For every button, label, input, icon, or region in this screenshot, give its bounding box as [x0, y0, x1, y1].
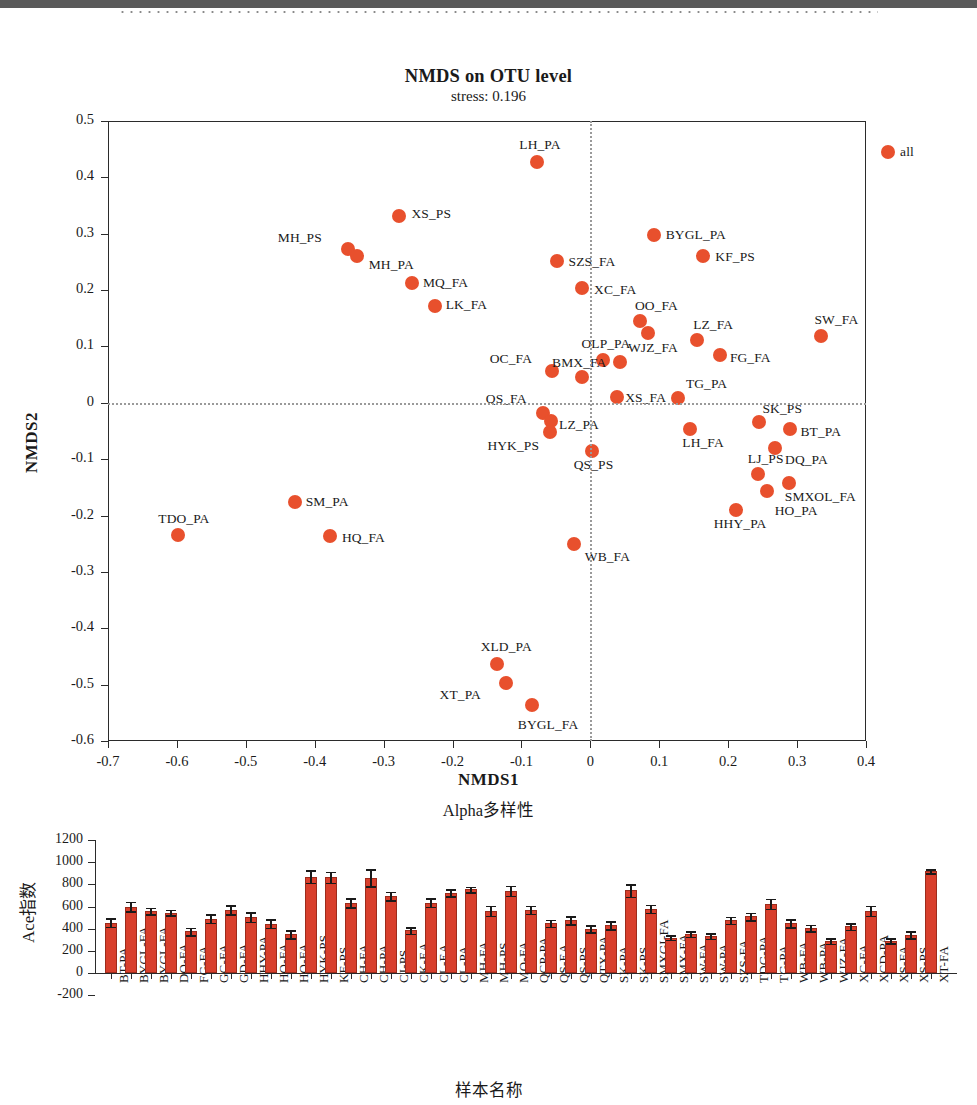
error-bar-cap: [446, 896, 456, 898]
bar-x-tick: [411, 973, 412, 979]
scatter-point-label: MQ_FA: [423, 275, 468, 291]
error-bar-cap: [386, 892, 396, 894]
bar-y-tick-label: 1000: [23, 853, 83, 869]
scatter-point[interactable]: [550, 254, 564, 268]
y-tick: [101, 459, 108, 460]
error-bar-cap: [466, 887, 476, 889]
alpha-diversity-panel: Alpha多样性 Ace指数 -200020040060080010001200…: [0, 793, 977, 1105]
bar-x-tick: [571, 973, 572, 979]
scatter-point[interactable]: [350, 249, 364, 263]
error-bar-cap: [126, 911, 136, 913]
scatter-point-label: SM_PA: [306, 494, 349, 510]
scatter-point[interactable]: [171, 528, 185, 542]
bar-y-tick-label: 1200: [23, 831, 83, 847]
x-tick: [866, 741, 867, 748]
bar-y-tick: [88, 951, 95, 952]
scatter-point[interactable]: [690, 333, 704, 347]
scatter-point[interactable]: [530, 155, 544, 169]
x-tick: [453, 741, 454, 748]
scatter-point[interactable]: [751, 467, 765, 481]
y-tick-label: 0.2: [36, 280, 94, 297]
bar-x-tick: [471, 973, 472, 979]
bar-x-tick: [391, 973, 392, 979]
error-bar-cap: [266, 919, 276, 921]
error-bar-cap: [186, 928, 196, 930]
scatter-point-label: OO_FA: [635, 298, 678, 314]
scatter-point[interactable]: [814, 329, 828, 343]
scatter-point[interactable]: [610, 390, 624, 404]
scatter-point-label: all: [900, 144, 914, 160]
bar-x-tick: [511, 973, 512, 979]
bar-x-tick: [131, 973, 132, 979]
scatter-point-label: XS_PS: [411, 206, 451, 222]
error-bar-cap: [326, 872, 336, 874]
bar-x-tick: [311, 973, 312, 979]
y-tick: [101, 177, 108, 178]
scatter-point[interactable]: [729, 503, 743, 517]
bar-x-tick: [591, 973, 592, 979]
error-bar-cap: [866, 916, 876, 918]
bar-y-tick-label: 200: [23, 942, 83, 958]
scatter-point[interactable]: [490, 657, 504, 671]
error-bar-cap: [286, 930, 296, 932]
scatter-point-label: BYGL_FA: [518, 717, 578, 733]
error-bar-cap: [306, 870, 316, 872]
x-tick-label: 0.2: [698, 753, 758, 770]
scatter-point[interactable]: [696, 249, 710, 263]
scatter-point[interactable]: [760, 484, 774, 498]
scatter-point[interactable]: [567, 537, 581, 551]
bar-x-tick: [371, 973, 372, 979]
bar-x-tick: [831, 973, 832, 979]
scatter-point-label: HO_PA: [775, 503, 818, 519]
bar-y-tick-label: 0: [23, 964, 83, 980]
scatter-point[interactable]: [752, 415, 766, 429]
error-bar-cap: [566, 916, 576, 918]
y-tick-label: 0.5: [36, 111, 94, 128]
bar-y-tick-label: 600: [23, 898, 83, 914]
y-tick: [101, 121, 108, 122]
scatter-point[interactable]: [288, 495, 302, 509]
scatter-point[interactable]: [525, 698, 539, 712]
scatter-point[interactable]: [575, 370, 589, 384]
nmds-scatter-panel: NMDS on OTU level stress: 0.196 NMDS2 NM…: [0, 18, 977, 793]
y-tick-label: -0.2: [36, 506, 94, 523]
x-tick: [177, 741, 178, 748]
x-tick-label: -0.7: [78, 753, 138, 770]
error-bar-cap: [826, 944, 836, 946]
x-tick-label: 0.3: [767, 753, 827, 770]
bar-x-tick: [891, 973, 892, 979]
scatter-point[interactable]: [783, 422, 797, 436]
error-bar: [310, 870, 312, 882]
y-tick: [101, 516, 108, 517]
error-bar-cap: [326, 883, 336, 885]
alpha-chart-title: Alpha多样性: [0, 797, 977, 821]
scatter-point[interactable]: [713, 348, 727, 362]
x-tick-label: -0.2: [423, 753, 483, 770]
bar-x-tick: [151, 973, 152, 979]
bar-x-tick: [251, 973, 252, 979]
error-bar-cap: [406, 934, 416, 936]
error-bar-cap: [926, 873, 936, 875]
scatter-point-label: SW_FA: [815, 312, 859, 328]
scatter-point[interactable]: [881, 145, 895, 159]
error-bar-cap: [686, 937, 696, 939]
nmds-chart-title: NMDS on OTU level: [0, 66, 977, 87]
error-bar-cap: [586, 925, 596, 927]
scatter-point[interactable]: [782, 476, 796, 490]
bar-x-tick: [631, 973, 632, 979]
bar-x-tick: [171, 973, 172, 979]
scatter-point-label: HQ_FA: [342, 530, 385, 546]
error-bar-cap: [626, 884, 636, 886]
error-bar-cap: [686, 931, 696, 933]
error-bar-cap: [266, 928, 276, 930]
scatter-point[interactable]: [428, 299, 442, 313]
scatter-point[interactable]: [323, 529, 337, 543]
scatter-point[interactable]: [613, 355, 627, 369]
scatter-point[interactable]: [499, 676, 513, 690]
error-bar-cap: [146, 914, 156, 916]
error-bar-cap: [166, 915, 176, 917]
bar-x-tick: [931, 973, 932, 979]
error-bar-cap: [886, 943, 896, 945]
error-bar-cap: [226, 914, 236, 916]
error-bar-cap: [526, 914, 536, 916]
